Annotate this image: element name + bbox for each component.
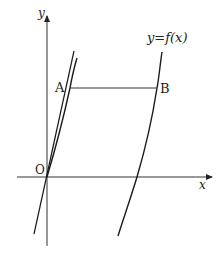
curve-right-branch <box>118 52 162 236</box>
point-b-label: B <box>160 82 170 95</box>
tangent-line <box>34 51 74 234</box>
y-axis-label: y <box>38 7 45 19</box>
curve-label: y=f(x) <box>147 31 188 44</box>
function-graph-diagram: y x O A B y=f(x) <box>0 0 221 255</box>
x-axis-label: x <box>199 179 206 191</box>
point-a-label: A <box>55 81 64 94</box>
curve-left-branch <box>47 58 77 177</box>
origin-label: O <box>35 164 45 176</box>
